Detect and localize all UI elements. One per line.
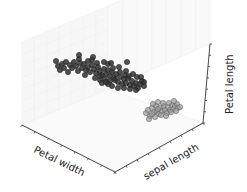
data-point	[121, 85, 126, 90]
data-point	[155, 99, 160, 104]
data-point	[133, 87, 138, 92]
data-point	[76, 52, 81, 57]
data-point	[158, 112, 163, 117]
data-point	[163, 113, 168, 118]
data-point	[155, 106, 160, 111]
data-point	[92, 75, 97, 80]
data-point	[94, 60, 99, 65]
data-point	[124, 59, 129, 64]
data-point	[110, 65, 115, 70]
data-point	[160, 100, 165, 105]
data-point	[53, 58, 58, 63]
data-point	[177, 104, 182, 109]
data-point	[109, 83, 114, 88]
data-point	[171, 98, 176, 103]
data-point	[173, 108, 178, 113]
data-point	[108, 60, 113, 65]
z-axis-line	[203, 44, 210, 123]
data-point	[146, 116, 151, 121]
z-axis-label: Petal length	[224, 54, 235, 114]
data-point	[103, 79, 108, 84]
data-point	[116, 64, 121, 69]
data-point	[97, 73, 102, 78]
data-point	[138, 74, 143, 79]
data-point	[168, 109, 173, 114]
data-point	[90, 54, 95, 59]
data-point	[123, 68, 128, 73]
data-point	[61, 65, 66, 70]
data-point	[115, 85, 120, 90]
scatter-3d-chart: Petal width sepal length Petal length	[0, 0, 247, 192]
data-point	[82, 72, 87, 77]
data-point	[149, 111, 154, 116]
data-point	[166, 100, 171, 105]
data-point	[150, 101, 155, 106]
data-point	[113, 71, 118, 76]
data-point	[65, 69, 70, 74]
data-point	[127, 86, 132, 91]
data-point	[141, 83, 146, 88]
